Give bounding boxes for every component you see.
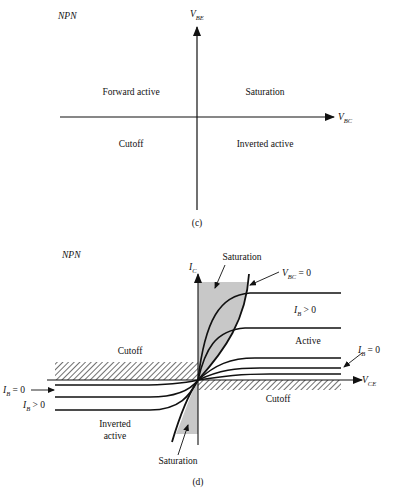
region-inverted-active: Inverted active — [237, 139, 294, 149]
ic-axis-label: IC — [188, 262, 197, 274]
label-ib-gt0-right: IB > 0 — [293, 305, 316, 317]
caption-d: (d) — [192, 477, 203, 488]
npn-label-d: NPN — [61, 250, 81, 260]
saturation-region-top — [198, 282, 248, 380]
label-saturation-bottom: Saturation — [158, 456, 197, 466]
label-ib-eq0-right: IB = 0 — [357, 345, 380, 357]
vbe-axis-label: VBE — [190, 9, 204, 21]
label-vbc-zero: VBC = 0 — [282, 268, 311, 280]
label-inverted-active-2: active — [104, 431, 127, 441]
label-ib-eq0-left: IB = 0 — [2, 385, 25, 397]
npn-label-c: NPN — [57, 11, 77, 21]
vbc-axis-label: VBC — [338, 112, 353, 124]
bjt-region-diagrams: NPN VBE VBC Forward active Saturation Cu… — [0, 0, 398, 497]
label-cutoff-right: Cutoff — [266, 394, 291, 404]
label-saturation-top: Saturation — [222, 252, 261, 262]
label-active: Active — [295, 336, 320, 346]
cutoff-region-right — [198, 380, 341, 390]
region-cutoff: Cutoff — [119, 139, 144, 149]
label-ib-gt0-left: IB > 0 — [22, 400, 45, 412]
region-forward-active: Forward active — [102, 87, 159, 97]
cutoff-region-left — [55, 362, 198, 380]
diagram-c: NPN VBE VBC Forward active Saturation Cu… — [57, 9, 353, 229]
region-saturation: Saturation — [245, 87, 284, 97]
diagram-d: NPN IC VCE Saturation VBC = 0 — [2, 250, 380, 488]
vce-axis-label: VCE — [362, 375, 376, 387]
caption-c: (c) — [192, 218, 203, 229]
label-cutoff-left: Cutoff — [118, 346, 143, 356]
saturation-region-bottom — [176, 380, 198, 434]
label-inverted-active-1: Inverted — [99, 419, 131, 429]
